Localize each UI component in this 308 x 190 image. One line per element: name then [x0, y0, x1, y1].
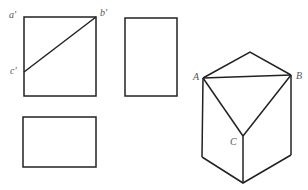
- label-b-prime: b': [100, 7, 108, 18]
- label-a-prime: a': [9, 9, 17, 20]
- iso-top-back-edges: [203, 52, 291, 78]
- top-view-outline: [23, 117, 96, 167]
- side-view: [125, 18, 177, 96]
- label-B: B: [296, 70, 302, 81]
- isometric-view: A B C: [192, 52, 302, 183]
- iso-edge-left-vertical: [202, 78, 203, 157]
- front-view-diagonal-b-c: [24, 17, 96, 72]
- projection-diagram: a' b' c' A B C: [0, 0, 308, 190]
- front-view-outline: [24, 17, 96, 96]
- label-c-prime: c': [10, 65, 17, 76]
- iso-edge-A-B: [203, 75, 291, 78]
- iso-edge-A-C: [203, 78, 243, 136]
- iso-edge-B-C: [243, 75, 291, 136]
- side-view-outline: [125, 18, 177, 96]
- label-C: C: [230, 136, 237, 147]
- label-A: A: [192, 71, 200, 82]
- front-view: a' b' c': [9, 7, 108, 96]
- iso-bottom-edges: [202, 155, 291, 183]
- top-view: [23, 117, 96, 167]
